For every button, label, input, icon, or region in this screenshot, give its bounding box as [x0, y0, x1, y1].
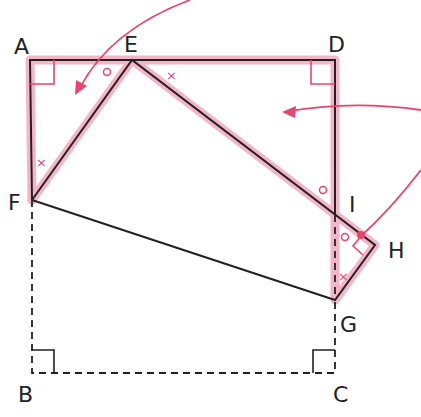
label-i: I [349, 192, 356, 217]
arrow-head-3 [357, 231, 365, 239]
svg-text:×: × [166, 68, 177, 83]
label-h: H [388, 238, 405, 263]
label-e: E [124, 32, 138, 57]
geometry-diagram: × × × A E D F I H G B C [0, 0, 421, 417]
dashed-outline [32, 200, 335, 373]
label-a: A [14, 34, 29, 59]
label-c: C [333, 382, 348, 407]
svg-text:×: × [338, 269, 349, 284]
svg-text:×: × [36, 155, 47, 170]
arrow-head-1 [75, 80, 87, 95]
highlight-regions [30, 60, 375, 300]
label-g: G [340, 312, 357, 337]
label-f: F [8, 190, 21, 215]
arrow-head-2 [282, 106, 296, 118]
solid-lines [30, 60, 375, 300]
label-b: B [18, 382, 33, 407]
label-d: D [328, 32, 345, 57]
